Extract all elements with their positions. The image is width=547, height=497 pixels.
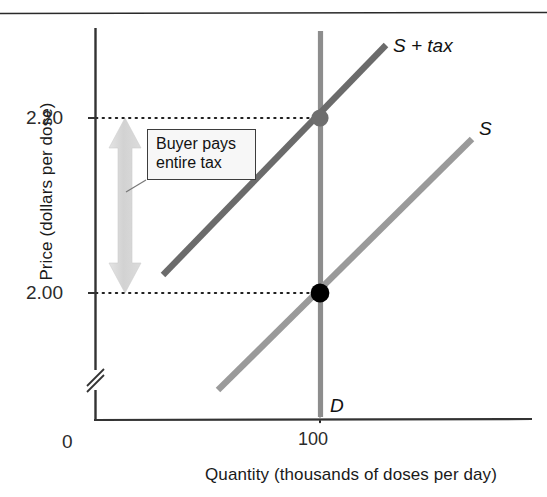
equilibrium-no-tax-marker: [311, 284, 330, 303]
equilibrium-with-tax-marker: [311, 109, 328, 126]
supply-plus-tax-label: S + tax: [393, 36, 453, 55]
tax-incidence-figure: Price (dollars per dose) Quantity (thous…: [0, 0, 547, 497]
x-axis-title: Quantity (thousands of doses per day): [166, 466, 536, 483]
y-tick-label-200: 2.00: [26, 283, 63, 302]
tax-arrow: [109, 118, 141, 293]
buyer-pays-entire-tax-callout: Buyer pays entire tax: [147, 129, 256, 180]
y-tick-label-220: 2.20: [26, 108, 63, 127]
x-axis-line: [94, 419, 532, 420]
callout-line-2: entire tax: [156, 154, 249, 173]
callout-line-1: Buyer pays: [156, 135, 249, 154]
x-tick-label-100: 100: [298, 430, 328, 448]
origin-label: 0: [62, 432, 73, 451]
chart-canvas: [0, 0, 547, 497]
page-top-rule: [0, 13, 547, 14]
demand-label: D: [330, 396, 344, 415]
supply-label: S: [479, 119, 492, 138]
